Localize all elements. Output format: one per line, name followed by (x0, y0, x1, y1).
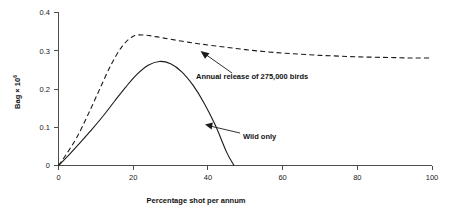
x-tick-label-40: 40 (204, 173, 212, 182)
wild-only-annotation-arrowhead (205, 123, 213, 130)
y-axis-title: Bag × 106 (12, 75, 22, 109)
x-axis-ticks (59, 166, 433, 171)
release-annotation-label: Annual release of 275,000 birds (196, 72, 308, 81)
x-axis-title: Percentage shot per annum (147, 196, 246, 205)
x-tick-label-80: 80 (353, 173, 361, 182)
y-tick-label-0.1: 0.1 (40, 123, 50, 132)
y-tick-label-0.4: 0.4 (40, 8, 50, 17)
series-line-annual-release (59, 35, 433, 166)
chart-figure: 0.4 0.3 0.2 0.1 0 0 20 40 60 80 100 (0, 0, 458, 212)
x-tick-label-20: 20 (129, 173, 137, 182)
svg-text:Bag × 106: Bag × 106 (12, 75, 22, 109)
y-axis-title-exponent: 6 (12, 75, 18, 78)
release-annotation-arrowhead (201, 51, 210, 59)
release-annotation-leader (205, 54, 232, 73)
y-tick-label-0: 0 (46, 161, 50, 170)
y-axis-title-text: Bag × 10 (13, 78, 22, 109)
y-tick-label-0.3: 0.3 (40, 47, 50, 56)
line-chart: 0.4 0.3 0.2 0.1 0 0 20 40 60 80 100 (0, 0, 458, 212)
release-annotation-group: Annual release of 275,000 birds (196, 51, 308, 81)
y-axis-ticks (54, 13, 59, 166)
wild-only-annotation-leader (210, 126, 240, 133)
x-axis-tick-labels: 0 20 40 60 80 100 (56, 173, 438, 182)
wild-only-annotation-label: Wild only (243, 132, 277, 141)
y-tick-label-0.2: 0.2 (40, 85, 50, 94)
y-axis-tick-labels: 0.4 0.3 0.2 0.1 0 (40, 8, 50, 170)
x-tick-label-0: 0 (56, 173, 60, 182)
x-tick-label-100: 100 (426, 173, 439, 182)
x-tick-label-60: 60 (278, 173, 286, 182)
